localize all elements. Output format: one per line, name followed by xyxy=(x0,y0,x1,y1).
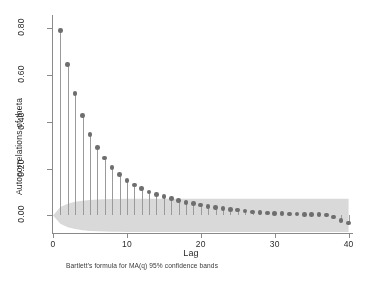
y-tick-label: 0.00 xyxy=(16,197,26,231)
x-tick xyxy=(53,234,54,238)
acf-point xyxy=(117,172,122,177)
acf-point xyxy=(198,203,203,208)
acf-point xyxy=(287,212,292,217)
acf-point xyxy=(339,218,344,223)
acf-point xyxy=(147,190,152,195)
acf-point xyxy=(88,132,93,137)
acf-point xyxy=(280,211,285,216)
y-tick-label: 0.60 xyxy=(16,57,26,91)
y-tick xyxy=(47,75,52,76)
acf-stem xyxy=(120,174,121,215)
acf-point xyxy=(331,215,336,220)
acf-point xyxy=(295,212,300,217)
acf-point xyxy=(154,192,159,197)
acf-point xyxy=(191,201,196,206)
acf-point xyxy=(176,198,181,203)
acf-point xyxy=(228,207,233,212)
acf-point xyxy=(184,200,189,205)
acf-point xyxy=(169,196,174,201)
correlogram-figure: 0.000.200.400.600.80 010203040 Autocorre… xyxy=(0,0,382,288)
acf-point xyxy=(65,62,70,67)
acf-stem xyxy=(142,188,143,215)
acf-stem xyxy=(105,158,106,215)
x-axis-title: Lag xyxy=(0,248,382,258)
acf-point xyxy=(317,212,322,217)
acf-point xyxy=(206,204,211,209)
acf-point xyxy=(132,183,137,188)
y-tick xyxy=(47,169,52,170)
acf-point xyxy=(309,212,314,217)
acf-stem xyxy=(134,185,135,215)
acf-point xyxy=(221,206,226,211)
acf-point xyxy=(162,194,167,199)
acf-point xyxy=(58,28,63,33)
acf-point xyxy=(258,210,263,215)
acf-point xyxy=(265,211,270,216)
acf-stem xyxy=(149,192,150,215)
acf-stem xyxy=(164,197,165,216)
acf-point xyxy=(213,205,218,210)
acf-point xyxy=(235,208,240,213)
acf-point xyxy=(73,91,78,96)
y-tick-label: 0.80 xyxy=(16,10,26,44)
y-axis-title: Autocorrelations of theta xyxy=(14,98,24,195)
acf-stem xyxy=(90,135,91,216)
x-axis-line xyxy=(52,233,353,234)
acf-stem xyxy=(112,167,113,215)
x-tick xyxy=(275,234,276,238)
figure-caption: Bartlett's formula for MA(q) 95% confide… xyxy=(66,262,218,269)
y-tick xyxy=(47,215,52,216)
acf-stem xyxy=(156,194,157,215)
acf-point xyxy=(139,186,144,191)
acf-point xyxy=(324,213,329,218)
acf-point xyxy=(250,210,255,215)
acf-stem xyxy=(75,94,76,216)
acf-stem xyxy=(127,180,128,215)
acf-stem xyxy=(171,199,172,216)
acf-point xyxy=(110,165,115,170)
acf-point xyxy=(125,178,130,183)
acf-point xyxy=(346,221,351,226)
acf-stem xyxy=(68,64,69,215)
acf-point xyxy=(80,113,85,118)
acf-stem xyxy=(97,147,98,215)
y-axis-line xyxy=(52,15,53,234)
x-tick xyxy=(127,234,128,238)
y-tick xyxy=(47,28,52,29)
y-tick xyxy=(47,122,52,123)
acf-stem xyxy=(83,116,84,216)
acf-point xyxy=(272,211,277,216)
x-tick xyxy=(201,234,202,238)
x-tick xyxy=(349,234,350,238)
acf-point xyxy=(243,209,248,214)
acf-point xyxy=(95,145,100,150)
acf-point xyxy=(102,156,107,161)
acf-stem xyxy=(60,30,61,215)
acf-point xyxy=(302,212,307,217)
